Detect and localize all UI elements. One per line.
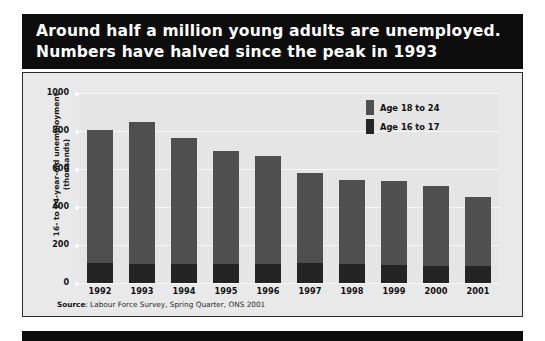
bar-segment-age-18-to-24 [171,138,197,264]
y-axis-tick-label: 800 [27,126,69,135]
bar-segment-age-16-to-17 [87,263,113,283]
y-axis-tick-label: 200 [27,240,69,249]
bar-segment-age-18-to-24 [339,180,365,264]
bar-segment-age-18-to-24 [213,151,239,264]
bar-segment-age-16-to-17 [255,264,281,283]
bar-segment-age-16-to-17 [129,264,155,283]
legend-swatch [366,100,374,115]
gridline [79,283,499,284]
bar-segment-age-18-to-24 [297,173,323,263]
x-axis-label: 1995 [203,286,249,296]
chart-legend: Age 18 to 24Age 16 to 17 [366,99,439,137]
bar-column [213,151,239,283]
chart-title-line-2: Numbers have halved since the peak in 19… [36,42,523,63]
bar-column [381,181,407,283]
legend-label: Age 16 to 17 [380,122,439,132]
legend-label: Age 18 to 24 [380,103,439,113]
y-axis-tick-label: 600 [27,164,69,173]
bar-segment-age-18-to-24 [423,186,449,266]
source-note: Source: Labour Force Survey, Spring Quar… [57,300,265,309]
bar-column [87,130,113,283]
legend-item: Age 16 to 17 [366,118,439,135]
bar-segment-age-16-to-17 [171,264,197,283]
y-axis-tick-label: 1000 [27,88,69,97]
bar-segment-age-18-to-24 [87,130,113,263]
bar-column [297,173,323,283]
bar-column [465,197,491,283]
legend-item: Age 18 to 24 [366,99,439,116]
bar-segment-age-16-to-17 [213,264,239,283]
x-axis-label: 1994 [161,286,207,296]
x-axis-label: 1999 [371,286,417,296]
source-prefix: Source [57,300,85,309]
bar-segment-age-18-to-24 [381,181,407,265]
bar-segment-age-16-to-17 [381,265,407,283]
x-axis-label: 1996 [245,286,291,296]
chart-title-line-1: Around half a million young adults are u… [36,21,523,42]
x-axis-label: 1997 [287,286,333,296]
bar-column [423,186,449,283]
legend-swatch [366,119,374,134]
bar-column [339,180,365,283]
unemployment-chart-figure: Around half a million young adults are u… [0,0,545,341]
chart-title-banner: Around half a million young adults are u… [22,14,523,69]
bar-segment-age-16-to-17 [297,263,323,283]
bottom-strip [22,331,523,341]
bar-segment-age-18-to-24 [255,156,281,264]
x-axis-label: 1993 [119,286,165,296]
source-text: : Labour Force Survey, Spring Quarter, O… [85,300,265,309]
y-axis-tick-label: 400 [27,202,69,211]
y-axis-tick-label: 0 [27,278,69,287]
bar-segment-age-16-to-17 [339,264,365,283]
bar-segment-age-16-to-17 [465,266,491,283]
chart-frame: 16- to 24-year-old unemployment (thousan… [22,72,523,317]
bar-column [255,156,281,283]
bar-column [129,122,155,284]
x-axis-label: 2001 [455,286,501,296]
bar-segment-age-18-to-24 [129,122,155,265]
bar-segment-age-16-to-17 [423,266,449,283]
bar-column [171,138,197,283]
x-axis-label: 1992 [77,286,123,296]
x-axis-label: 1998 [329,286,375,296]
bar-segment-age-18-to-24 [465,197,491,266]
x-axis-label: 2000 [413,286,459,296]
